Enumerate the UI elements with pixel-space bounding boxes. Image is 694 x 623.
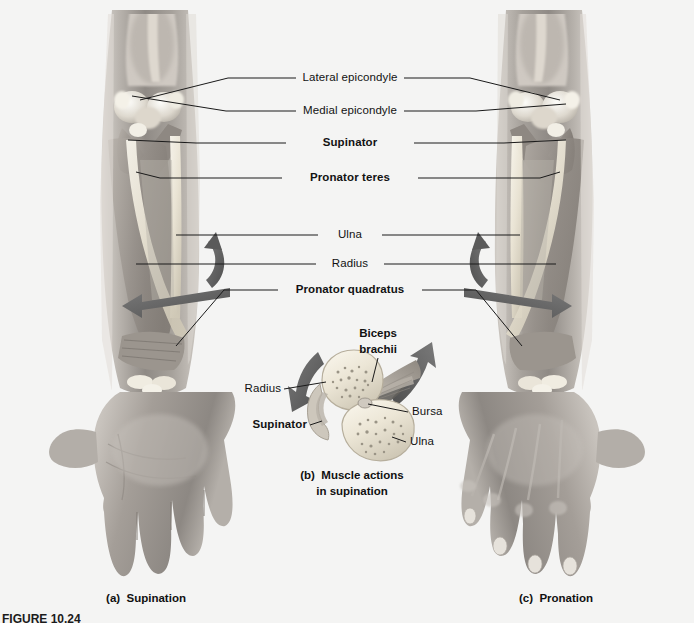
caption-panel-a: (a) Supination (106, 591, 186, 607)
label-medial-epicondyle: Medial epicondyle (303, 105, 397, 117)
label-ulna: Ulna (338, 229, 362, 241)
artwork-layer (0, 0, 694, 623)
caption-panel-c: (c) Pronation (519, 591, 593, 607)
label-inset-bursa: Bursa (412, 406, 443, 418)
left-rotation-arrow-curved (204, 232, 224, 288)
label-pronator-teres: Pronator teres (310, 172, 390, 184)
label-supinator: Supinator (323, 137, 378, 149)
label-pronator-quadratus: Pronator quadratus (296, 284, 405, 296)
label-lateral-epicondyle: Lateral epicondyle (302, 72, 397, 84)
right-rotation-arrow-curved (470, 232, 490, 288)
anatomy-figure: Lateral epicondyle Medial epicondyle Sup… (0, 0, 694, 623)
left-arm-illustration (49, 4, 235, 576)
ulna-section (342, 400, 414, 461)
label-inset-ulna: Ulna (410, 436, 434, 448)
label-inset-radius: Radius (245, 383, 281, 395)
figure-number: FIGURE 10.24 (2, 612, 81, 623)
caption-panel-b: (b) Muscle actions in supination (300, 468, 404, 499)
right-arm-illustration (459, 4, 645, 576)
label-inset-supinator: Supinator (252, 419, 307, 431)
label-inset-biceps-brachii: Biceps brachii (359, 326, 397, 357)
left-hand-palm (49, 392, 235, 576)
bursa-marker (358, 398, 372, 408)
label-radius: Radius (332, 258, 368, 270)
right-hand-dorsum (459, 392, 645, 576)
